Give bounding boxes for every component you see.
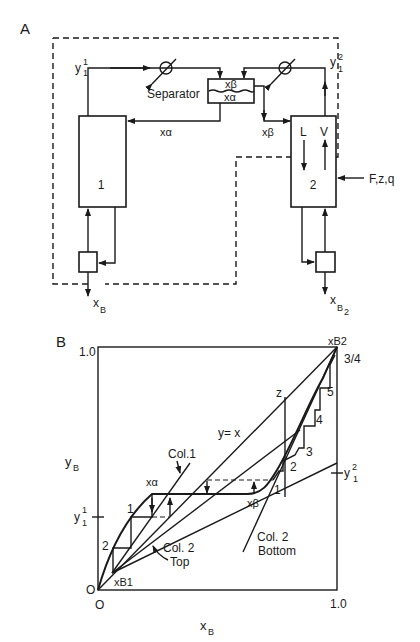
y12-sub: 1 [353,474,358,484]
col2-vapor-sup: 2 [338,52,343,62]
col2-stage-4: 4 [316,413,323,427]
vapor-label: V [320,125,328,139]
x-alpha-line [128,103,220,121]
x-beta-plot-label: xβ [247,497,259,509]
y11-sup: 1 [82,505,87,515]
xb2-label: xB2 [328,335,347,347]
x-max-tick: 1.0 [330,597,347,611]
origin-x-label: O [95,598,104,612]
y-max-tick: 1.0 [79,345,96,359]
col2-stage-5: 5 [327,385,334,399]
x-beta-line [254,86,290,121]
col2-vapor-label: y [330,55,336,69]
column-2 [291,116,336,207]
separator-label: Separator [147,87,200,101]
panel-b: B 1.0 1.0 O O y B x B y= x Col.1 Col. 2 … [56,333,361,637]
col2-stage-3: 3 [306,445,313,459]
col1-label: Col.1 [168,447,196,461]
y12-sup: 2 [352,462,357,472]
col2-stage-1: 1 [274,483,281,497]
bottoms-2-label: x [330,293,336,307]
bottoms-1-label: x [93,296,99,310]
separator-bottom-label: xα [224,91,237,103]
col1-vapor-label: y [75,61,81,75]
col2-bottom-label: Col. 2 [257,530,289,544]
bottoms-2-sub: B [337,303,343,313]
z-label: z [276,386,282,400]
col1-stage-2: 2 [102,539,109,553]
col2-bottom-operating-line [243,347,337,552]
col2-top-label: Col. 2 [163,541,195,555]
column-1-label: 1 [98,178,105,192]
bottoms-2-sub2: 2 [344,307,349,317]
col1-vapor-sub: 1 [83,68,88,78]
x-axis-sub: B [208,627,214,637]
col2-vapor-sub: 1 [338,64,343,74]
col2-overhead-line [244,68,325,116]
panel-a: A 1 2 xβ xα Separator y 1 1 y 2 1 [20,20,394,317]
col1-stage-1: 1 [127,502,134,516]
panel-b-label: B [56,333,66,350]
x-alpha-plot-label: xα [146,476,159,488]
reboiler-2-liquid [302,207,314,262]
col1-vapor-sup: 1 [83,57,88,67]
x-beta-label: xβ [262,126,274,138]
figure-canvas: A 1 2 xβ xα Separator y 1 1 y 2 1 [0,0,420,642]
ratio-label: 3/4 [344,352,361,366]
y11-sub: 1 [82,518,87,528]
xb1-label: xB1 [114,576,133,588]
y12-label: y [344,466,350,480]
col2-top-label2: Top [170,555,190,569]
reboiler-1-liquid [99,207,115,263]
separator-top-label: xβ [225,78,237,90]
column-1 [79,116,126,207]
x-alpha-label: xα [160,126,173,138]
feed-label: F,z,q [369,172,394,186]
diagonal-line [98,347,337,590]
y-axis-sub: B [73,463,79,473]
origin-y-label: O [86,583,95,597]
panel-a-label: A [20,20,30,37]
diagonal-label: y= x [218,426,240,440]
y11-label: y [74,510,80,524]
reboiler-2 [316,252,335,272]
reboiler-1 [79,252,97,272]
col2-bottom-label2: Bottom [258,544,296,558]
liquid-label: L [300,125,307,139]
col1-pointer [177,461,180,473]
bottoms-1-sub: B [100,305,106,315]
x-axis-label: x [200,618,207,633]
col2-stage-2: 2 [290,460,297,474]
y-axis-label: y [65,454,72,469]
column-2-label: 2 [310,178,317,192]
